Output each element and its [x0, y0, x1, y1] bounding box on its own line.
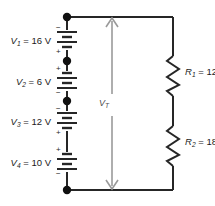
polarity-v1-bottom: + — [56, 48, 61, 56]
polarity-v3-bottom: + — [56, 129, 61, 137]
source-label-v4: V4 = 10 V — [4, 158, 51, 168]
node-dot-top-left — [63, 13, 71, 21]
source-label-v2: V2 = 6 V — [4, 77, 51, 87]
battery-symbol-v1 — [57, 32, 77, 47]
resistor-symbol-r2 — [167, 126, 179, 166]
conductor-group — [67, 17, 173, 190]
polarity-v2-bottom: − — [56, 89, 61, 97]
node-dot-v2-v3 — [63, 97, 71, 105]
polarity-v4-top: + — [56, 146, 61, 154]
resistor-symbol-r1 — [167, 56, 179, 96]
battery-symbol-v3 — [57, 113, 77, 128]
polarity-v3-top: − — [56, 105, 61, 113]
node-dot-v1-v2 — [63, 57, 71, 65]
total-voltage-label: VT — [99, 99, 109, 108]
polarity-v1-top: − — [56, 24, 61, 32]
battery-symbol-v4 — [57, 154, 77, 169]
battery-symbol-v2 — [57, 73, 77, 88]
source-label-v1: V1 = 16 V — [4, 36, 51, 46]
source-label-v3: V3 = 12 V — [4, 117, 51, 127]
polarity-v4-bottom: − — [56, 170, 61, 178]
resistor-label-r1: R1 = 12 Ω — [185, 67, 215, 77]
polarity-v2-top: + — [56, 65, 61, 73]
resistor-label-r2: R2 = 18 Ω — [185, 137, 215, 147]
node-dot-bottom-left — [63, 186, 71, 194]
circuit-diagram: V1 = 16 V V2 = 6 V V3 = 12 V V4 = 10 V R… — [0, 0, 215, 206]
